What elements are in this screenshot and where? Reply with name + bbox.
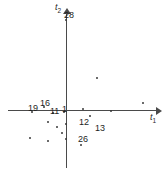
y-axis-line [66,14,67,168]
point-label: 13 [95,124,105,133]
point-label: 28 [64,11,74,20]
point-label: 1 [62,105,67,114]
point-label: 16 [40,99,50,108]
data-point [110,110,112,112]
x-axis-title: t1 [150,112,156,124]
data-point [56,126,58,128]
point-label: 11 [50,107,59,116]
data-point [142,102,144,104]
scatter-plot: t1 t2 191611128121326 [0,0,166,174]
point-label: 19 [28,104,38,113]
data-point [96,77,98,79]
x-axis-title-subscript: 1 [153,117,157,124]
data-point [61,132,63,134]
data-point [89,115,91,117]
data-point [80,144,82,146]
data-point [29,137,31,139]
data-point [47,140,49,142]
y-axis-title: t2 [55,2,61,14]
y-axis-title-subscript: 2 [58,7,62,14]
data-point [47,121,49,123]
point-label: 26 [78,135,88,144]
x-axis-arrow-icon [156,107,162,115]
point-label: 12 [79,118,89,127]
